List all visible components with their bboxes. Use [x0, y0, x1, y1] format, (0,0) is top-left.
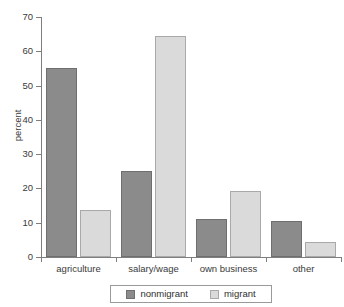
legend-label: migrant — [224, 289, 256, 299]
legend-label: nonmigrant — [140, 289, 188, 299]
bar-nonmigrant-salary-wage — [121, 171, 152, 257]
bar-migrant-other — [305, 242, 336, 257]
chart-legend: nonmigrantmigrant — [110, 285, 272, 303]
y-axis-tick-label: 70 — [22, 12, 33, 22]
y-axis-tick-label: 60 — [22, 46, 33, 56]
x-axis-tick — [41, 257, 42, 262]
y-axis-tick-label: 20 — [22, 183, 33, 193]
y-axis-tick-label: 40 — [22, 115, 33, 125]
y-axis-tick-label: 50 — [22, 81, 33, 91]
x-axis-label: salary/wage — [116, 263, 191, 274]
nonmigrant-swatch — [126, 290, 135, 299]
bar-migrant-agriculture — [80, 210, 111, 257]
bar-nonmigrant-own-business — [196, 219, 227, 257]
x-axis-label: other — [266, 263, 341, 274]
bar-nonmigrant-other — [271, 221, 302, 257]
x-axis-label: agriculture — [41, 263, 116, 274]
y-axis-tick-label: 10 — [22, 218, 33, 228]
y-axis-tick-label: 0 — [28, 252, 33, 262]
plot-area — [41, 17, 341, 257]
y-axis-tick-label: 30 — [22, 149, 33, 159]
legend-entry-nonmigrant: nonmigrant — [126, 289, 188, 299]
legend-entry-migrant: migrant — [210, 289, 256, 299]
x-axis-tick — [266, 257, 267, 262]
x-axis-tick — [116, 257, 117, 262]
x-axis-tick — [191, 257, 192, 262]
bar-nonmigrant-agriculture — [46, 68, 77, 257]
migrant-swatch — [210, 290, 219, 299]
y-axis-title: percent — [12, 96, 23, 156]
x-axis-label: own business — [191, 263, 266, 274]
x-axis-tick — [341, 257, 342, 262]
bar-chart: percent 010203040506070 agriculturesalar… — [0, 0, 344, 307]
bar-migrant-salary-wage — [155, 36, 186, 257]
bar-migrant-own-business — [230, 191, 261, 257]
